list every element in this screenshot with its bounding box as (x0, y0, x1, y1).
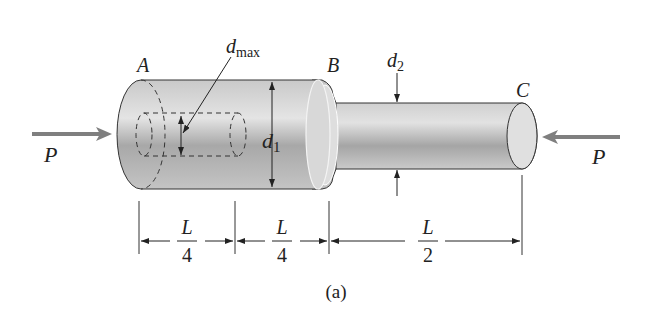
svg-text:L: L (180, 216, 192, 238)
svg-text:4: 4 (182, 244, 192, 266)
svg-text:2: 2 (423, 244, 433, 266)
load-arrow-left (32, 127, 112, 141)
dimension-bc: L 2 (418, 216, 438, 266)
small-cylinder-bc (330, 103, 537, 169)
point-c-label: C (516, 79, 530, 101)
svg-text:L: L (421, 216, 433, 238)
point-a-label: A (135, 54, 150, 76)
dimension-ab2: L 4 (272, 216, 292, 266)
figure-caption: (a) (325, 281, 346, 303)
dimension-ab1: L 4 (177, 216, 197, 266)
svg-text:L: L (275, 216, 287, 238)
large-cylinder-ab (117, 80, 330, 189)
stepped-bar-diagram: dmax d1 d2 A B C P P (0, 0, 652, 313)
d2-label: d2 (387, 49, 404, 74)
end-face-c (507, 103, 537, 169)
load-p-left-label: P (43, 142, 57, 167)
point-b-label: B (327, 54, 339, 76)
load-p-right-label: P (591, 144, 605, 169)
svg-text:4: 4 (277, 244, 287, 266)
load-arrow-right (542, 130, 620, 144)
dmax-label: dmax (226, 35, 260, 60)
